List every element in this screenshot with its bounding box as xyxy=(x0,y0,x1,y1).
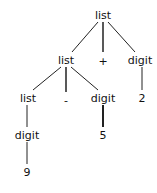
node-digit: digit xyxy=(128,55,152,66)
node-minus: - xyxy=(64,95,68,106)
node-leaf-5: 5 xyxy=(100,130,107,141)
node-list-root: list xyxy=(95,10,111,21)
node-list: list xyxy=(20,93,36,104)
node-list: list xyxy=(58,55,74,66)
node-digit: digit xyxy=(91,93,115,104)
node-leaf-2: 2 xyxy=(139,93,146,104)
node-plus: + xyxy=(98,56,107,67)
node-leaf-9: 9 xyxy=(24,167,31,178)
node-digit: digit xyxy=(15,130,39,141)
